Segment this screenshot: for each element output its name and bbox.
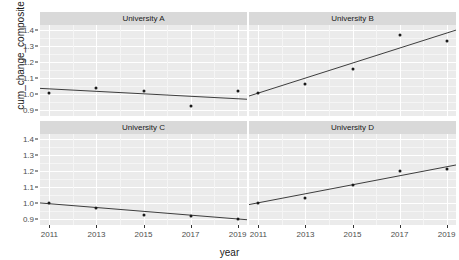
data-point	[304, 83, 307, 86]
y-tick-mark	[35, 29, 38, 30]
x-tick-label: 2019	[438, 230, 456, 239]
y-tick-label: 1.0	[23, 198, 34, 207]
y-tick-label: 1.4	[23, 134, 34, 143]
regression-line	[249, 134, 456, 225]
data-point	[142, 89, 145, 92]
x-tick-mark	[144, 225, 145, 228]
y-tick-label: 1.3	[23, 150, 34, 159]
facet-strip-label-c: University C	[40, 121, 247, 134]
y-tick-label: 0.9	[23, 105, 34, 114]
facet-strip-label-a: University A	[40, 12, 247, 25]
facet-panel-university-c: University C	[40, 121, 247, 225]
y-tick-mark	[35, 186, 38, 187]
x-axis-right-column: 20112013201520172019	[249, 225, 456, 243]
facet-panel-university-d: University D	[249, 121, 456, 225]
facet-strip-label-b: University B	[249, 12, 456, 25]
faceted-scatter-chart: cum_change_composite 0.91.01.11.21.31.4 …	[0, 0, 459, 260]
y-tick-mark	[35, 202, 38, 203]
data-point	[236, 90, 239, 93]
x-tick-label: 2013	[297, 230, 315, 239]
panel-plot-area-a	[40, 25, 247, 116]
y-tick-label: 1.2	[23, 57, 34, 66]
x-tick-mark	[191, 225, 192, 228]
x-axis-left-column: 20112013201520172019	[40, 225, 247, 243]
data-point	[398, 170, 401, 173]
x-tick-mark	[258, 225, 259, 228]
x-tick-label: 2019	[229, 230, 247, 239]
y-tick-label: 1.1	[23, 73, 34, 82]
y-axis-ticks-top-row: 0.91.01.11.21.31.4	[16, 25, 38, 116]
data-point	[398, 34, 401, 37]
y-tick-mark	[35, 154, 38, 155]
x-tick-mark	[400, 225, 401, 228]
data-point	[304, 196, 307, 199]
y-tick-mark	[35, 218, 38, 219]
x-tick-mark	[49, 225, 50, 228]
x-tick-label: 2017	[391, 230, 409, 239]
x-tick-label: 2011	[250, 230, 267, 239]
data-point	[257, 91, 260, 94]
panel-plot-area-d	[249, 134, 456, 225]
y-tick-mark	[35, 109, 38, 110]
x-tick-mark	[96, 225, 97, 228]
x-tick-label: 2013	[88, 230, 106, 239]
x-tick-label: 2011	[41, 230, 58, 239]
facet-panel-university-b: University B	[249, 12, 456, 116]
x-tick-label: 2017	[182, 230, 200, 239]
y-tick-mark	[35, 170, 38, 171]
y-tick-mark	[35, 45, 38, 46]
y-tick-label: 1.2	[23, 166, 34, 175]
data-point	[95, 206, 98, 209]
x-tick-mark	[238, 225, 239, 228]
y-tick-label: 1.4	[23, 25, 34, 34]
regression-line	[40, 25, 247, 116]
data-point	[48, 91, 51, 94]
x-tick-label: 2015	[344, 230, 362, 239]
regression-line	[40, 134, 247, 225]
y-tick-mark	[35, 61, 38, 62]
data-point	[445, 40, 448, 43]
data-point	[236, 218, 239, 221]
x-tick-mark	[305, 225, 306, 228]
y-tick-mark	[35, 93, 38, 94]
data-point	[351, 67, 354, 70]
x-axis-title: year	[0, 247, 459, 258]
y-axis-ticks-bottom-row: 0.91.01.11.21.31.4	[16, 134, 38, 225]
y-tick-mark	[35, 77, 38, 78]
data-point	[142, 214, 145, 217]
data-point	[95, 87, 98, 90]
facet-panel-university-a: University A	[40, 12, 247, 116]
x-tick-label: 2015	[135, 230, 153, 239]
y-tick-label: 1.1	[23, 182, 34, 191]
data-point	[189, 215, 192, 218]
data-point	[257, 202, 260, 205]
regression-line	[249, 25, 456, 116]
y-tick-label: 0.9	[23, 214, 34, 223]
facet-strip-label-d: University D	[249, 121, 456, 134]
panel-plot-area-b	[249, 25, 456, 116]
data-point	[189, 104, 192, 107]
data-point	[48, 201, 51, 204]
x-tick-mark	[447, 225, 448, 228]
y-tick-label: 1.3	[23, 41, 34, 50]
y-tick-label: 1.0	[23, 89, 34, 98]
data-point	[445, 167, 448, 170]
x-tick-mark	[353, 225, 354, 228]
panel-plot-area-c	[40, 134, 247, 225]
y-tick-mark	[35, 138, 38, 139]
data-point	[351, 184, 354, 187]
